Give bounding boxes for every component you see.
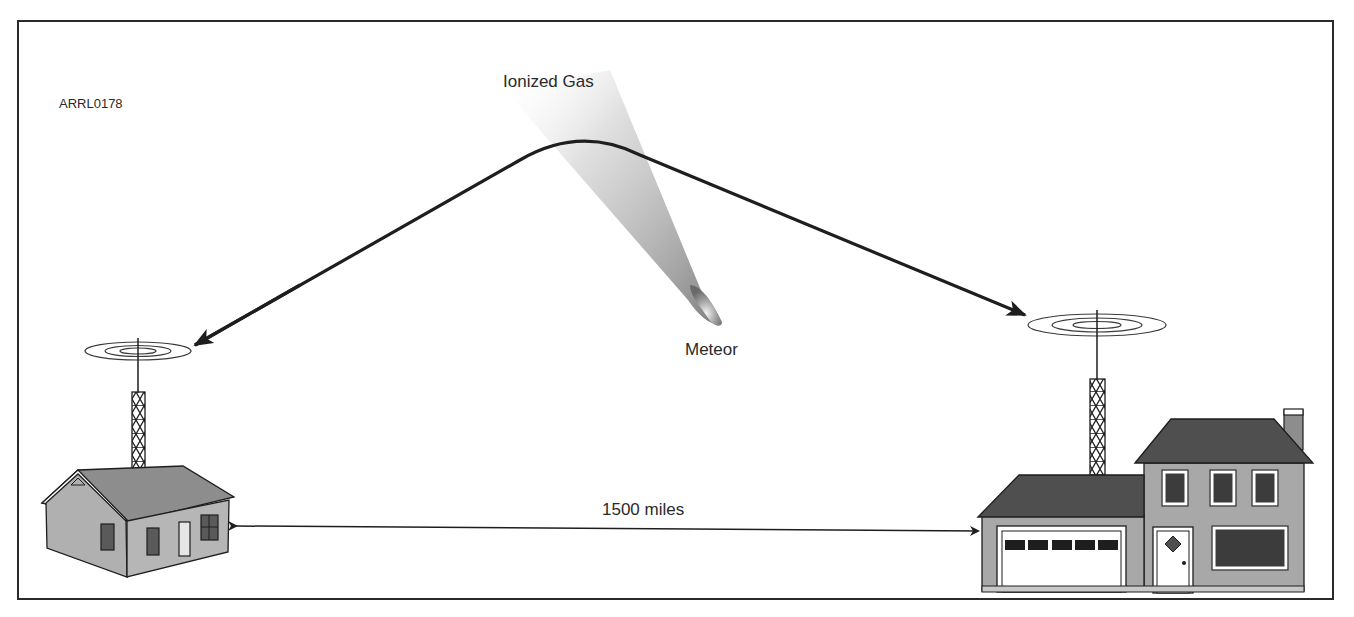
left-station [42,338,234,577]
distance-label: 1500 miles [602,500,684,520]
signal-path-left-arrow [195,285,300,345]
ionized-gas-trail [505,70,720,325]
left-tower-icon [132,392,145,470]
figure-id-label: ARRL0178 [59,96,123,111]
ionized-gas-label: Ionized Gas [503,72,594,92]
meteor-label: Meteor [685,340,738,360]
meteor-scatter-diagram [0,0,1354,617]
distance-arrow [236,526,978,531]
right-tower-icon [1090,379,1105,475]
right-station [978,310,1313,593]
